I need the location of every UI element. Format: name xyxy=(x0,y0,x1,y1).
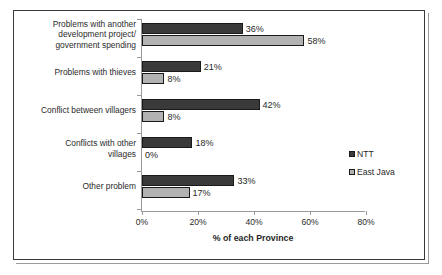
category-axis-line xyxy=(141,211,365,212)
axis-tick xyxy=(310,211,311,215)
legend-item[interactable]: East Java xyxy=(349,167,395,177)
bar-ntt xyxy=(142,175,234,186)
bar-value-label: 0% xyxy=(145,150,158,160)
legend-item-label: NTT xyxy=(357,149,374,159)
category-label: Conflicts with othervillages xyxy=(18,138,136,159)
chart-legend: NTTEast Java xyxy=(349,149,395,185)
bar-value-label: 21% xyxy=(204,62,222,72)
legend-item[interactable]: NTT xyxy=(349,149,395,159)
plot-area: 0%20%40%60%80% Problems with anotherdeve… xyxy=(14,11,426,261)
category-axis-tick xyxy=(137,57,141,58)
bar-value-label: 8% xyxy=(167,112,180,122)
bar-value-label: 58% xyxy=(307,36,325,46)
category-label: Other problem xyxy=(18,181,136,192)
legend-swatch-icon xyxy=(349,151,355,157)
axis-tick-label: 60% xyxy=(290,217,330,227)
bar-value-label: 17% xyxy=(193,188,211,198)
bar-ntt xyxy=(142,61,201,72)
bar-value-label: 18% xyxy=(195,138,213,148)
bar-east-java xyxy=(142,111,164,122)
bar-value-label: 33% xyxy=(237,176,255,186)
category-axis-tick xyxy=(137,19,141,20)
bar-value-label: 8% xyxy=(167,74,180,84)
axis-tick xyxy=(142,211,143,215)
axis-title: % of each Province xyxy=(141,233,365,243)
category-label: Conflict between villagers xyxy=(18,105,136,116)
category-axis-tick xyxy=(137,133,141,134)
category-axis-tick xyxy=(137,209,141,210)
bar-east-java xyxy=(142,35,304,46)
category-axis-tick xyxy=(137,171,141,172)
bar-ntt xyxy=(142,137,192,148)
axis-tick xyxy=(366,211,367,215)
axis-tick xyxy=(254,211,255,215)
axis-tick-label: 0% xyxy=(122,217,162,227)
bar-east-java xyxy=(142,187,190,198)
legend-swatch-icon xyxy=(349,169,355,175)
legend-item-label: East Java xyxy=(357,167,395,177)
bar-east-java xyxy=(142,73,164,84)
bar-value-label: 42% xyxy=(263,100,281,110)
axis-tick-label: 80% xyxy=(346,217,386,227)
category-axis-tick xyxy=(137,95,141,96)
category-label: Problems with anotherdevelopment project… xyxy=(18,19,136,51)
axis-tick-label: 20% xyxy=(178,217,218,227)
axis-tick-label: 40% xyxy=(234,217,274,227)
axis-tick xyxy=(198,211,199,215)
bar-ntt xyxy=(142,99,260,110)
chart-frame: 0%20%40%60%80% Problems with anotherdeve… xyxy=(13,10,425,260)
bar-value-label: 36% xyxy=(246,24,264,34)
category-label: Problems with thieves xyxy=(18,67,136,78)
bar-ntt xyxy=(142,23,243,34)
